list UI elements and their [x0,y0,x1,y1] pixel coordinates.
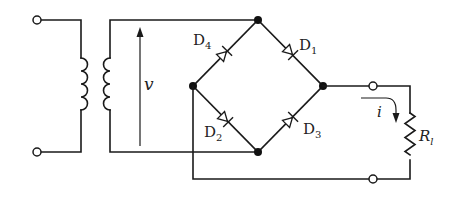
label-d3-main: D [303,120,315,138]
voltage-label: v [144,76,154,93]
secondary-winding [104,20,259,152]
label-d1: D1 [299,38,317,53]
output-terminal-bottom [369,175,377,183]
input-terminal-top [33,16,41,24]
voltage-arrow [137,27,144,146]
label-d4-main: D [193,31,205,49]
label-d2-main: D [204,123,216,141]
label-d1-main: D [299,36,311,54]
label-d4-sub: 4 [205,40,211,51]
circuit-diagram: v D4 D1 D2 D3 i Rl [0,0,470,201]
input-terminal-bottom [33,148,41,156]
current-label: i [377,105,382,120]
label-d4: D4 [193,33,211,48]
load-resistor-label: Rl [419,129,434,144]
label-d3: D3 [303,122,321,137]
label-d1-sub: 1 [311,45,317,56]
output-terminal-top [369,82,377,90]
primary-winding [41,20,88,152]
circuit-svg [0,0,470,201]
node-top [254,16,262,24]
label-d2-sub: 2 [216,132,222,143]
node-bottom [254,148,262,156]
load-label-main: R [419,127,430,145]
load-label-sub: l [430,136,433,147]
label-d3-sub: 3 [315,129,321,140]
label-d2: D2 [204,125,222,140]
